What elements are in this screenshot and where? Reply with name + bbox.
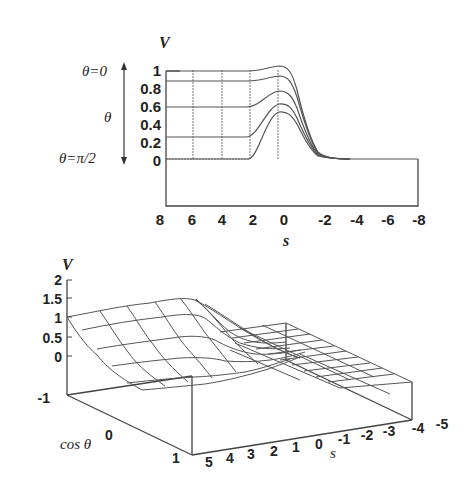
top-curves — [166, 66, 418, 159]
svg-text:5: 5 — [205, 454, 213, 470]
svg-text:-1: -1 — [38, 390, 51, 406]
svg-text:-1: -1 — [338, 431, 351, 447]
cos-tick-1: 1 — [172, 450, 180, 466]
svg-text:6: 6 — [188, 211, 196, 228]
svg-text:4: 4 — [226, 450, 234, 466]
cos-theta-axis-label: cos θ — [60, 436, 92, 452]
svg-text:-4: -4 — [412, 420, 425, 436]
svg-text:-2: -2 — [361, 427, 374, 443]
top-chart: V θ=0 θ θ=π/2 1 0.8 0.6 0.4 0.2 0 — [59, 34, 426, 249]
theta-mid-label: θ — [104, 109, 112, 125]
svg-text:1: 1 — [54, 310, 62, 326]
svg-text:-2: -2 — [318, 211, 331, 228]
curve-theta-pi2 — [166, 112, 350, 159]
svg-text:3: 3 — [247, 446, 255, 462]
svg-text:0: 0 — [280, 211, 288, 228]
top-v-axis-label: V — [159, 34, 171, 51]
figure: V θ=0 θ θ=π/2 1 0.8 0.6 0.4 0.2 0 — [0, 0, 468, 490]
top-grid — [166, 70, 278, 159]
curve-theta-0 — [166, 66, 418, 159]
svg-text:-6: -6 — [381, 211, 394, 228]
svg-text:-5: -5 — [436, 416, 449, 432]
svg-text:4: 4 — [218, 211, 227, 228]
top-y-tick-labels: 1 0.8 0.6 0.4 0.2 0 — [140, 62, 162, 169]
svg-text:-3: -3 — [383, 423, 396, 439]
svg-text:1: 1 — [153, 62, 161, 79]
svg-text:0.8: 0.8 — [140, 80, 161, 97]
svg-text:-8: -8 — [412, 211, 425, 228]
svg-text:2: 2 — [249, 211, 257, 228]
theta-double-arrow-icon — [121, 62, 127, 165]
svg-text:0: 0 — [54, 349, 62, 365]
svg-text:1.5: 1.5 — [43, 291, 63, 307]
svg-text:-4: -4 — [350, 211, 364, 228]
top-s-axis-label: s — [282, 232, 289, 249]
svg-text:0: 0 — [315, 436, 323, 452]
curve-theta-3 — [166, 104, 350, 159]
svg-text:2: 2 — [54, 272, 62, 288]
svg-text:1: 1 — [292, 439, 300, 455]
curve-theta-2 — [166, 91, 350, 159]
z-tick-labels: 2 1.5 1 0.5 0 -1 — [38, 272, 63, 406]
svg-text:0: 0 — [153, 152, 161, 169]
svg-text:0.6: 0.6 — [140, 98, 161, 115]
svg-text:2: 2 — [270, 443, 278, 459]
bottom-chart: V 2 1.5 1 0.5 0 -1 — [38, 256, 449, 470]
surface-mesh — [67, 298, 412, 394]
theta-top-label: θ=0 — [82, 63, 107, 79]
svg-text:0.2: 0.2 — [140, 134, 161, 151]
theta-bottom-label: θ=π/2 — [59, 150, 96, 166]
bottom-s-axis-label: s — [330, 445, 336, 461]
top-x-tick-labels: 8 6 4 2 0 -2 -4 -6 -8 — [156, 211, 426, 228]
svg-text:8: 8 — [156, 211, 164, 228]
top-axes-frame — [166, 71, 418, 206]
svg-text:0.5: 0.5 — [43, 330, 63, 346]
cos-tick-0: 0 — [105, 427, 113, 443]
bottom-v-axis-label: V — [62, 256, 74, 273]
svg-text:0.4: 0.4 — [140, 116, 162, 133]
bottom-s-tick-labels: 5 4 3 2 1 0 -1 -2 -3 -4 -5 — [205, 416, 448, 470]
